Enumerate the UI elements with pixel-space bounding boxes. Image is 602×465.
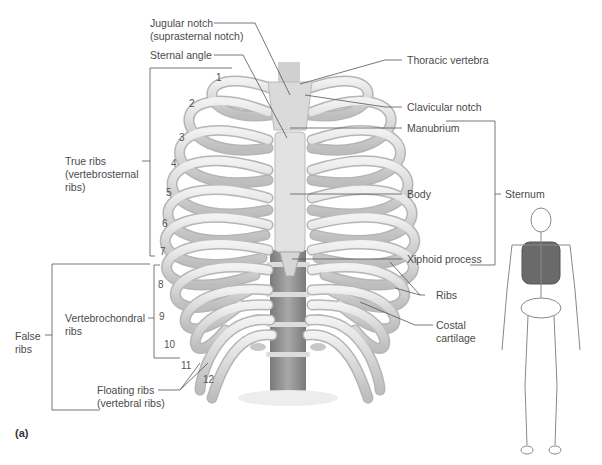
rib-number-9: 9 bbox=[159, 311, 165, 322]
label-thoracic-vertebra: Thoracic vertebra bbox=[407, 54, 489, 66]
label-floating-ribs-2: (vertebral ribs) bbox=[97, 397, 165, 409]
label-sternum: Sternum bbox=[505, 188, 545, 200]
panel-label: (a) bbox=[15, 427, 28, 439]
rib-number-7: 7 bbox=[160, 246, 166, 257]
label-body: Body bbox=[407, 188, 431, 200]
rib-number-2: 2 bbox=[189, 98, 195, 109]
label-vertebrochondral-2: ribs bbox=[65, 325, 82, 337]
label-costal-cartilage-1: Costal bbox=[436, 319, 466, 331]
label-jugular-notch-alt: (suprasternal notch) bbox=[150, 30, 243, 42]
label-false-ribs-1: False bbox=[15, 330, 41, 342]
label-true-ribs-3: ribs) bbox=[65, 181, 85, 193]
rib-number-1: 1 bbox=[216, 72, 222, 83]
label-vertebrochondral-1: Vertebrochondral bbox=[65, 312, 145, 324]
label-ribs: Ribs bbox=[436, 289, 457, 301]
label-true-ribs-1: True ribs bbox=[65, 155, 106, 167]
label-true-ribs-2: (vertebrosternal bbox=[65, 168, 139, 180]
sternum bbox=[268, 82, 312, 276]
label-costal-cartilage-2: cartilage bbox=[436, 332, 476, 344]
rib-number-11: 11 bbox=[181, 360, 191, 371]
label-xiphoid-process: Xiphoid process bbox=[407, 253, 482, 265]
rib-number-3: 3 bbox=[179, 132, 185, 143]
mini-skeleton-icon bbox=[502, 208, 580, 454]
label-floating-ribs-1: Floating ribs bbox=[97, 384, 154, 396]
label-manubrium: Manubrium bbox=[407, 122, 460, 134]
label-clavicular-notch: Clavicular notch bbox=[407, 101, 482, 113]
label-sternal-angle: Sternal angle bbox=[150, 49, 212, 61]
rib-number-6: 6 bbox=[162, 218, 168, 229]
rib-number-5: 5 bbox=[166, 187, 172, 198]
rib-number-8: 8 bbox=[158, 279, 164, 290]
label-false-ribs-2: ribs bbox=[15, 343, 32, 355]
label-jugular-notch: Jugular notch bbox=[150, 17, 213, 29]
ribcage-illustration bbox=[0, 0, 602, 465]
rib-number-4: 4 bbox=[171, 158, 177, 169]
rib-number-12: 12 bbox=[203, 374, 214, 385]
rib-number-10: 10 bbox=[164, 339, 175, 350]
